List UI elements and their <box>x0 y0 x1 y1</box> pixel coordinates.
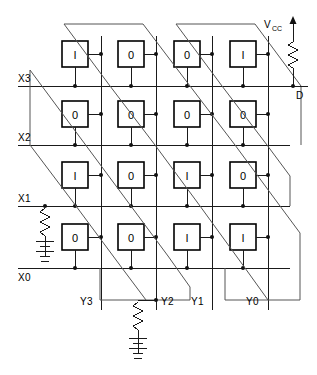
memory-cell[interactable]: I <box>230 41 270 88</box>
junction-dot <box>291 84 295 88</box>
cell-value: 0 <box>128 170 134 182</box>
cell-value: 0 <box>128 49 134 61</box>
vcc-subscript: CC <box>272 25 282 32</box>
y2-resistor-icon <box>133 302 143 330</box>
row-label-x3: X3 <box>18 73 31 84</box>
cell-row-x0: 0 0 I <box>62 224 270 270</box>
memory-cell[interactable]: 0 <box>118 41 158 88</box>
junction-dot <box>185 266 189 270</box>
junction-dot <box>73 143 77 147</box>
diagonal-segment <box>280 206 300 233</box>
output-label-d: D <box>296 90 304 101</box>
column-label-y2: Y2 <box>161 296 174 307</box>
cell-value: I <box>73 49 76 61</box>
y2-bias-network <box>129 298 158 358</box>
column-label-y3: Y3 <box>80 296 93 307</box>
diagonal-segment <box>267 145 290 176</box>
pullup-resistor-icon <box>288 42 298 68</box>
diagonal-segment <box>255 24 301 86</box>
junction-dot <box>266 235 270 239</box>
cell-value: I <box>185 232 188 244</box>
schematic-diagram: I 0 0 <box>0 0 317 375</box>
cell-value: I <box>241 49 244 61</box>
cell-row-x3: I 0 0 <box>62 41 270 88</box>
x1-bias-network <box>36 204 54 261</box>
junction-dot <box>210 235 214 239</box>
junction-dot <box>73 84 77 88</box>
junction-dot <box>266 112 270 116</box>
junction-dot <box>210 52 214 56</box>
column-label-y0: Y0 <box>246 296 259 307</box>
junction-dot <box>154 112 158 116</box>
memory-cell[interactable]: I <box>174 224 214 270</box>
junction-dot <box>73 266 77 270</box>
junction-dot <box>241 84 245 88</box>
memory-cell[interactable]: 0 <box>118 162 158 208</box>
memory-cell[interactable]: 0 <box>118 101 158 147</box>
cell-value: I <box>73 170 76 182</box>
junction-dot <box>266 52 270 56</box>
junction-dot <box>129 143 133 147</box>
column-label-group: Y3 Y2 Y1 Y0 <box>80 296 259 307</box>
memory-cell[interactable]: 0 <box>62 224 103 270</box>
diagonal-segment <box>110 86 155 145</box>
junction-dot <box>241 143 245 147</box>
x1-resistor-icon <box>40 208 50 236</box>
column-label-y1: Y1 <box>191 296 204 307</box>
junction-dot <box>129 84 133 88</box>
vcc-label: V <box>264 19 271 30</box>
cell-value: 0 <box>72 232 78 244</box>
memory-cell[interactable]: I <box>62 41 103 88</box>
cell-value: 0 <box>240 170 246 182</box>
junction-dot <box>154 173 158 177</box>
diagonal-segment <box>122 268 146 300</box>
junction-dot <box>185 143 189 147</box>
cell-value: 0 <box>72 109 78 121</box>
junction-dot <box>154 52 158 56</box>
junction-dot <box>241 204 245 208</box>
cell-row-x1: I 0 I <box>62 162 270 208</box>
junction-dot <box>99 112 103 116</box>
schematic-canvas: I 0 0 <box>0 0 317 375</box>
memory-cell[interactable]: I <box>230 224 270 270</box>
memory-cell[interactable]: 0 <box>230 101 270 147</box>
cell-value: I <box>241 232 244 244</box>
memory-cell[interactable]: 0 <box>118 224 158 270</box>
junction-dot <box>185 204 189 208</box>
vcc-arrow-icon <box>290 16 297 24</box>
junction-dot <box>210 173 214 177</box>
junction-dot <box>99 52 103 56</box>
cell-value: 0 <box>128 232 134 244</box>
cell-value: 0 <box>184 109 190 121</box>
memory-cell[interactable]: I <box>62 162 103 208</box>
junction-dot <box>129 266 133 270</box>
row-label-group: X3 X2 X1 X0 <box>18 73 31 283</box>
memory-cell[interactable]: 0 <box>174 101 214 147</box>
row-label-x2: X2 <box>18 132 31 143</box>
row-label-x0: X0 <box>18 272 31 283</box>
row-label-x1: X1 <box>18 193 31 204</box>
junction-dot <box>99 173 103 177</box>
junction-dot <box>266 173 270 177</box>
cell-value: 0 <box>184 49 190 61</box>
memory-cell[interactable]: I <box>174 162 214 208</box>
cell-value: I <box>185 170 188 182</box>
junction-dot <box>43 204 47 208</box>
